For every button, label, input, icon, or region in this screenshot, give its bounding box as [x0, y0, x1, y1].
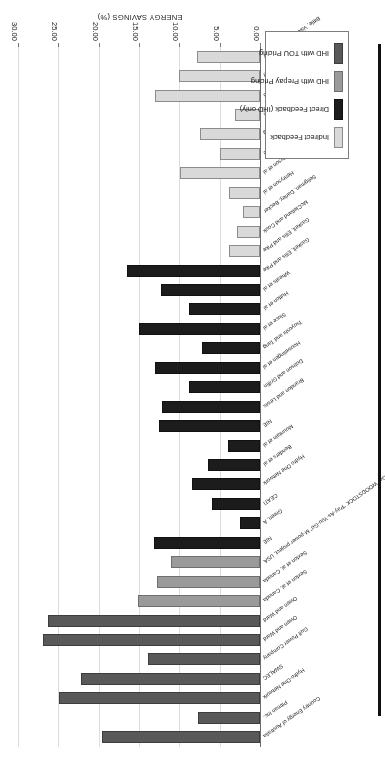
bar-row [19, 654, 261, 666]
category-label: Green, A [262, 508, 284, 526]
bar-row [19, 381, 261, 393]
bar[interactable] [243, 206, 260, 218]
page-gutter-artifact [378, 44, 381, 716]
bar-row [19, 634, 261, 646]
bar[interactable] [192, 479, 260, 491]
bar[interactable] [159, 420, 260, 432]
bar[interactable] [162, 401, 260, 413]
bar[interactable] [81, 673, 260, 685]
bar[interactable] [220, 148, 260, 160]
category-label: Country Energy of Australia [262, 696, 321, 740]
bar-row [19, 731, 261, 743]
chart-legend: Indirect Feedback Direct Feedback (IHD o… [265, 31, 349, 159]
bar[interactable] [212, 498, 260, 510]
bar[interactable] [202, 342, 260, 354]
legend-swatch-prepay-pricing [334, 72, 343, 93]
axis-title: ENERGY SAVINGS (%) [19, 13, 261, 22]
bar[interactable] [161, 284, 260, 296]
legend-swatch-indirect-feedback [334, 128, 343, 149]
legend-label: Indirect Feedback [270, 134, 329, 143]
bar-row [19, 420, 261, 432]
bar[interactable] [157, 576, 260, 588]
legend-label: Direct Feedback (IHD only) [240, 106, 329, 115]
bar-row [19, 537, 261, 549]
bar[interactable] [154, 537, 260, 549]
bar[interactable] [155, 90, 260, 102]
bar-row [19, 517, 261, 529]
legend-item[interactable]: Direct Feedback (IHD only) [271, 96, 343, 124]
bar[interactable] [138, 595, 260, 607]
bar-row [19, 556, 261, 568]
bar[interactable] [208, 459, 260, 471]
bar[interactable] [180, 167, 260, 179]
bar-row [19, 576, 261, 588]
axis-tick-label: 10.00 [171, 22, 180, 41]
bar[interactable] [155, 362, 260, 374]
legend-item[interactable]: Indirect Feedback [271, 124, 343, 152]
legend-item[interactable]: IHD with Prepay Pricing [271, 68, 343, 96]
category-label: NIE [262, 418, 273, 428]
bar-row [19, 712, 261, 724]
axis-tick [139, 43, 140, 47]
bar[interactable] [148, 654, 260, 666]
bar-row [19, 362, 261, 374]
bar[interactable] [43, 634, 260, 646]
bar-row [19, 479, 261, 491]
bar[interactable] [229, 187, 260, 199]
category-label: NIE [262, 535, 273, 545]
bar-row [19, 265, 261, 277]
bar-row [19, 459, 261, 471]
bar[interactable] [189, 381, 260, 393]
bar[interactable] [139, 323, 260, 335]
axis-tick [220, 43, 221, 47]
bar[interactable] [171, 556, 260, 568]
bar-row [19, 226, 261, 238]
axis-tick-label: 25.00 [50, 22, 59, 41]
value-axis-baseline [260, 47, 261, 747]
bar[interactable] [127, 265, 260, 277]
bar-row [19, 323, 261, 335]
bar[interactable] [189, 304, 260, 316]
bar[interactable] [229, 245, 260, 257]
axis-tick [179, 43, 180, 47]
category-label: Hutton et al [262, 291, 289, 312]
axis-tick-label: 5.00 [212, 26, 221, 41]
bar[interactable] [48, 615, 260, 627]
bar-row [19, 440, 261, 452]
bar[interactable] [240, 517, 260, 529]
axis-tick-label: 30.00 [10, 22, 19, 41]
bar[interactable] [237, 226, 260, 238]
bar-row [19, 595, 261, 607]
bar-row [19, 673, 261, 685]
bar-row [19, 90, 261, 102]
bar-row [19, 148, 261, 160]
legend-label: IHD with TOU Pricing [259, 50, 329, 59]
bar[interactable] [228, 440, 260, 452]
plot-area: Bittle, Valcasero and ThalerSeligman, Da… [19, 47, 261, 747]
axis-tick-label: 0.00 [252, 26, 261, 41]
bar-row [19, 304, 261, 316]
bar-row [19, 206, 261, 218]
bar-row [19, 284, 261, 296]
bar[interactable] [179, 70, 260, 82]
legend-item[interactable]: IHD with TOU Pricing [271, 40, 343, 68]
bar[interactable] [198, 712, 260, 724]
axis-tick-label: 20.00 [91, 22, 100, 41]
category-label: SRP "Pay-As-You-Go" WOODSTOCK "Pay-As-Yo… [262, 448, 385, 565]
category-label: SWALEC [262, 663, 285, 681]
bar-row [19, 498, 261, 510]
bar-row [19, 129, 261, 141]
energy-savings-bar-chart: Bittle, Valcasero and ThalerSeligman, Da… [0, 0, 385, 757]
bar[interactable] [200, 129, 260, 141]
bar[interactable] [197, 51, 260, 63]
axis-tick [58, 43, 59, 47]
legend-label: IHD with Prepay Pricing [251, 78, 329, 87]
bar[interactable] [59, 692, 260, 704]
bar[interactable] [102, 731, 260, 743]
bar-row [19, 615, 261, 627]
axis-tick [18, 43, 19, 47]
bar-row [19, 70, 261, 82]
legend-swatch-direct-feedback [334, 100, 343, 121]
category-label: Gaskell, Ellis and Pike [262, 217, 311, 254]
axis-tick [99, 43, 100, 47]
